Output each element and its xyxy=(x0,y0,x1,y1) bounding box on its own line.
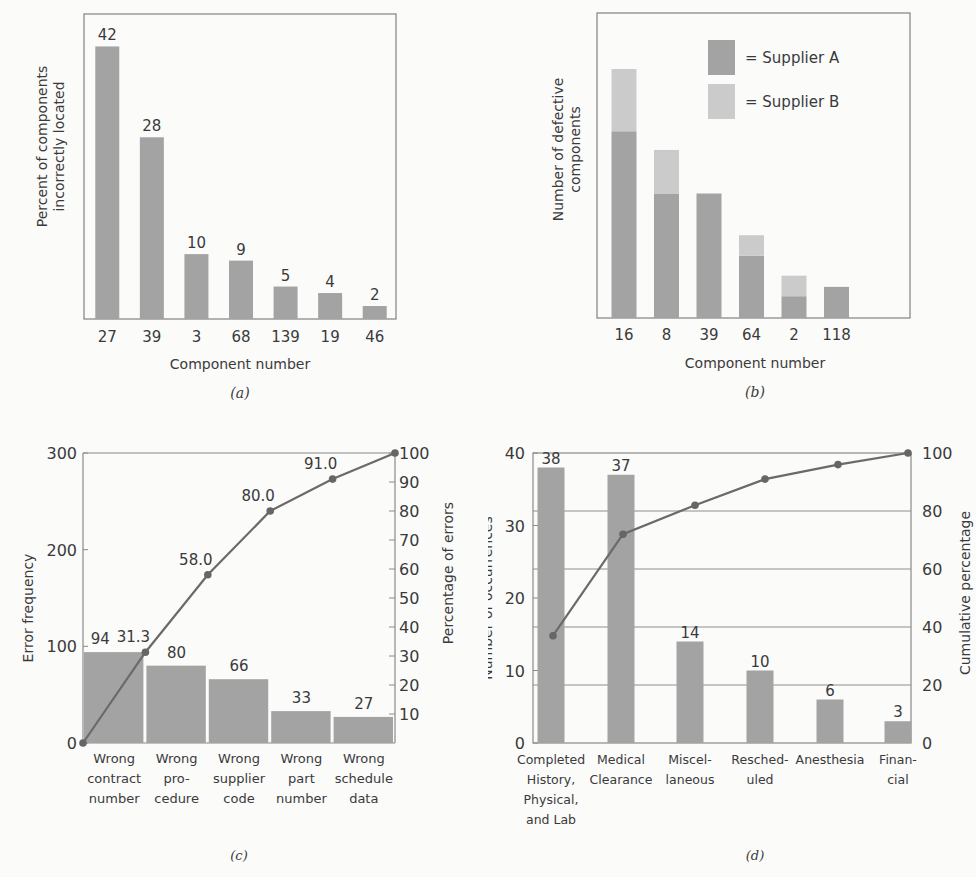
y2-tick-label: 100 xyxy=(922,444,953,463)
legend-swatch xyxy=(708,40,735,75)
bar xyxy=(538,468,565,744)
x-tick-label: 3 xyxy=(192,328,202,346)
x-tick-label: 27 xyxy=(98,328,117,346)
y2-tick-label: 90 xyxy=(399,473,419,492)
y-tick-label: 200 xyxy=(46,541,77,560)
chart-a: 422728391039685139419246Component number… xyxy=(0,0,488,420)
bar xyxy=(334,717,393,743)
y2-tick-label: 80 xyxy=(922,502,942,521)
data-label: 94 xyxy=(91,630,110,648)
x-tick-label: 39 xyxy=(142,328,161,346)
cumulative-label: 80.0 xyxy=(241,487,274,505)
x-tick-label: 39 xyxy=(699,326,718,344)
cumulative-label: 31.3 xyxy=(117,628,150,646)
bar-segment xyxy=(612,131,637,318)
cumulative-point xyxy=(904,449,912,457)
data-label: 27 xyxy=(354,695,373,713)
x-tick-label: Wrongpartnumber xyxy=(276,751,327,806)
data-label: 38 xyxy=(541,450,560,468)
y2-tick-label: 60 xyxy=(399,560,419,579)
data-label: 2 xyxy=(370,286,380,304)
legend-swatch xyxy=(708,84,735,119)
chart-b: 16839642118= Supplier A= Supplier BCompo… xyxy=(488,0,976,420)
cumulative-point xyxy=(549,632,557,640)
bar xyxy=(209,679,268,743)
bar-segment xyxy=(654,194,679,318)
cumulative-point xyxy=(391,449,399,457)
bar-segment xyxy=(654,150,679,194)
y-tick-label: 10 xyxy=(505,662,525,681)
y2-tick-label: 100 xyxy=(399,444,430,463)
x-tick-label: Anesthesia xyxy=(796,752,865,767)
x-tick-label: 8 xyxy=(662,326,672,344)
y-tick-label: 20 xyxy=(505,589,525,608)
bar xyxy=(608,475,635,743)
y-axis-label: Number of defectivecomponents xyxy=(550,78,583,222)
x-tick-label: Wrongcontractnumber xyxy=(87,751,141,806)
x-tick-label: Miscel-laneous xyxy=(666,752,715,787)
bar-segment xyxy=(824,287,849,318)
data-label: 9 xyxy=(236,241,246,259)
x-tick-label: 68 xyxy=(231,328,250,346)
bar xyxy=(885,721,912,743)
bar-segment xyxy=(697,194,722,318)
x-tick-label: Wrongscheduledata xyxy=(335,751,393,806)
x-tick-label: 139 xyxy=(271,328,300,346)
data-label: 10 xyxy=(187,234,206,252)
x-axis-label: Component number xyxy=(170,356,311,372)
bar xyxy=(318,293,342,319)
y2-tick-label: 20 xyxy=(922,676,942,695)
x-tick-label: 118 xyxy=(822,326,851,344)
data-label: 6 xyxy=(825,682,835,700)
data-label: 28 xyxy=(142,117,161,135)
y2-tick-label: 10 xyxy=(399,705,419,724)
bar-segment xyxy=(739,256,764,318)
legend-label: = Supplier A xyxy=(745,49,840,67)
bar xyxy=(271,711,330,743)
data-label: 4 xyxy=(325,273,335,291)
y-tick-label: 40 xyxy=(505,444,525,463)
data-label: 10 xyxy=(750,653,769,671)
bar xyxy=(140,137,164,319)
bar xyxy=(229,261,253,319)
legend-label: = Supplier B xyxy=(745,93,839,111)
y2-tick-label: 40 xyxy=(922,618,942,637)
bar xyxy=(677,642,704,744)
bar-segment xyxy=(782,296,807,318)
y-tick-label: 0 xyxy=(515,734,525,753)
cumulative-point xyxy=(266,507,274,515)
chart-c: 010020030010203040506070809010094Wrongco… xyxy=(0,420,488,877)
x-tick-label: 64 xyxy=(742,326,761,344)
data-label: 37 xyxy=(611,457,630,475)
y2-tick-label: 30 xyxy=(399,647,419,666)
bar xyxy=(184,254,208,319)
data-label: 80 xyxy=(167,644,186,662)
bar xyxy=(363,306,387,319)
y2-tick-label: 0 xyxy=(922,734,932,753)
y-tick-label: 30 xyxy=(505,517,525,536)
x-tick-label: 46 xyxy=(365,328,384,346)
data-label: 3 xyxy=(893,703,903,721)
cumulative-label: 58.0 xyxy=(179,551,212,569)
data-label: 66 xyxy=(229,657,248,675)
bar-segment xyxy=(739,235,764,256)
y-axis-label: Percent of componentsincorrectly located xyxy=(34,66,67,228)
cumulative-point xyxy=(204,571,212,579)
bar xyxy=(817,700,844,744)
x-tick-label: 19 xyxy=(321,328,340,346)
y-axis-label: Error frequency xyxy=(20,554,36,663)
cumulative-point xyxy=(761,475,769,483)
chart-d: 01020304002040608010038CompletedHistory,… xyxy=(488,420,976,877)
y2-tick-label: 80 xyxy=(399,502,419,521)
x-tick-label: Resched-uled xyxy=(731,752,788,787)
x-tick-label: CompletedHistory,Physical,and Lab xyxy=(517,752,585,827)
y2-tick-label: 20 xyxy=(399,676,419,695)
cumulative-point xyxy=(79,739,87,747)
plot-frame xyxy=(533,453,911,743)
data-label: 33 xyxy=(292,689,311,707)
data-label: 14 xyxy=(680,624,699,642)
x-tick-label: 16 xyxy=(614,326,633,344)
x-tick-label: MedicalClearance xyxy=(590,752,653,787)
x-tick-label: Wrongpro-cedure xyxy=(154,751,199,806)
y-tick-label: 300 xyxy=(46,444,77,463)
